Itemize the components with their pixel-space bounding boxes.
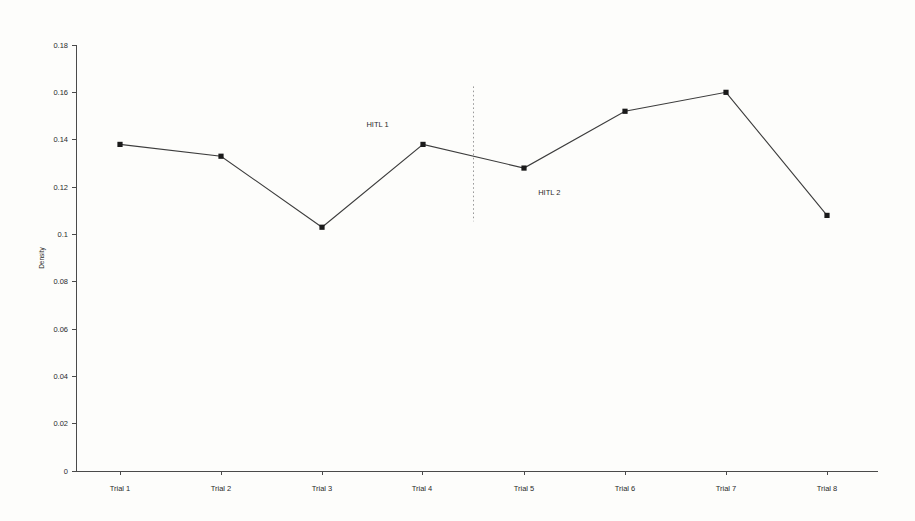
x-tick-label: Trial 4	[412, 484, 433, 493]
y-tick-label: 0.06	[53, 325, 68, 334]
x-tick-label: Trial 8	[817, 484, 838, 493]
data-point-marker	[521, 165, 526, 170]
x-tick-label: Trial 2	[211, 484, 232, 493]
x-tick-label: Trial 1	[110, 484, 131, 493]
annotation-hitl-1: HITL 1	[366, 120, 388, 129]
density-line-chart: 0 0.02 0.04 0.06 0.08 0.1	[0, 0, 915, 521]
data-point-marker	[824, 213, 829, 218]
data-point-marker	[218, 154, 223, 159]
y-tick-label: 0.02	[53, 419, 68, 428]
y-tick-label: 0.1	[58, 230, 68, 239]
x-tick-label: Trial 5	[514, 484, 535, 493]
y-tick-label: 0.08	[53, 277, 68, 286]
y-tick-label: 0.18	[53, 41, 68, 50]
data-point-marker	[622, 109, 627, 114]
data-point-marker	[723, 90, 728, 95]
x-tick-label: Trial 7	[716, 484, 737, 493]
x-tick-label: Trial 3	[312, 484, 333, 493]
data-point-marker	[319, 225, 324, 230]
data-point-marker	[117, 142, 122, 147]
y-tick-label: 0	[64, 467, 68, 476]
y-tick-label: 0.12	[53, 183, 68, 192]
chart-page: 0 0.02 0.04 0.06 0.08 0.1	[0, 0, 915, 521]
x-tick-label: Trial 6	[615, 484, 636, 493]
y-axis-title: Density	[38, 246, 46, 268]
y-tick-label: 0.16	[53, 88, 68, 97]
y-tick-label: 0.14	[53, 135, 68, 144]
y-tick-label: 0.04	[53, 372, 68, 381]
chart-background	[0, 0, 915, 521]
data-point-marker	[420, 142, 425, 147]
annotation-hitl-2: HITL 2	[538, 188, 560, 197]
